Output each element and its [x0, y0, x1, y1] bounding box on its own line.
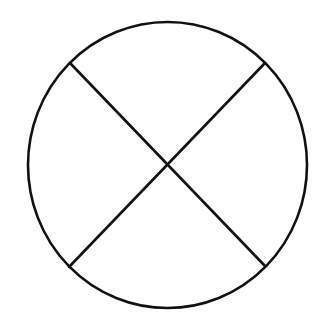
diagram-canvas — [0, 0, 324, 322]
circle-x-diagram — [0, 0, 324, 322]
